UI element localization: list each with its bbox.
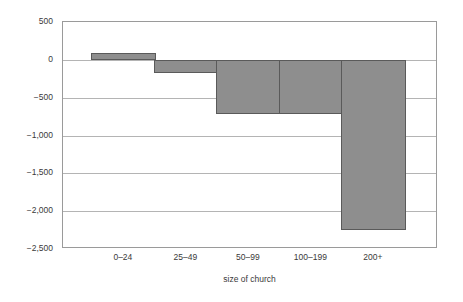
plot-area bbox=[62, 21, 437, 248]
x-axis-tick-label: 100–199 bbox=[294, 252, 327, 262]
x-axis-tick-label: 50–99 bbox=[236, 252, 260, 262]
y-axis-tick-label: −1,000 bbox=[10, 130, 58, 140]
y-axis-tick-labels: 5000−500−1,000−1,500−2,000−2,500 bbox=[10, 0, 58, 302]
x-axis-tick-label: 200+ bbox=[363, 252, 382, 262]
y-axis-tick-label: −1,500 bbox=[10, 167, 58, 177]
x-axis-tick-label: 0–24 bbox=[113, 252, 132, 262]
y-axis-tick-label: −500 bbox=[10, 92, 58, 102]
y-axis-tick-label: 0 bbox=[10, 54, 58, 64]
y-axis-tick-label: 500 bbox=[10, 16, 58, 26]
bar-chart: change in adult USA 5000−500−1,000−1,500… bbox=[0, 0, 463, 302]
bar bbox=[91, 53, 156, 60]
x-axis-title: size of church bbox=[62, 274, 437, 284]
x-axis-tick-labels: 0–2425–4950–99100–199200+ bbox=[62, 252, 437, 266]
bar bbox=[279, 60, 344, 114]
bar bbox=[154, 60, 219, 73]
x-axis-tick-label: 25–49 bbox=[174, 252, 198, 262]
bar bbox=[341, 60, 406, 230]
y-axis-tick-label: −2,000 bbox=[10, 205, 58, 215]
bar bbox=[216, 60, 281, 114]
y-axis-tick-label: −2,500 bbox=[10, 243, 58, 253]
